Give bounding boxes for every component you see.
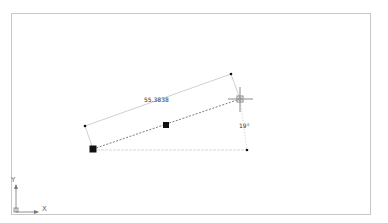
ucs-x-label: X (42, 205, 47, 213)
baseline-end-point (246, 149, 249, 152)
dimension-value-label: 55.3838 (144, 96, 169, 103)
ucs-y-label: Y (11, 176, 15, 184)
grip-start[interactable] (90, 146, 97, 153)
dimension-point-right (230, 73, 233, 76)
ucs-icon (14, 184, 39, 214)
dimension-extension-right (231, 74, 240, 99)
crosshair-cursor-icon (228, 87, 253, 112)
grip-midpoint[interactable] (163, 122, 169, 128)
angle-value-label: 19° (239, 122, 250, 129)
dimension-point-left (84, 125, 87, 128)
drawing-canvas[interactable] (0, 0, 388, 223)
